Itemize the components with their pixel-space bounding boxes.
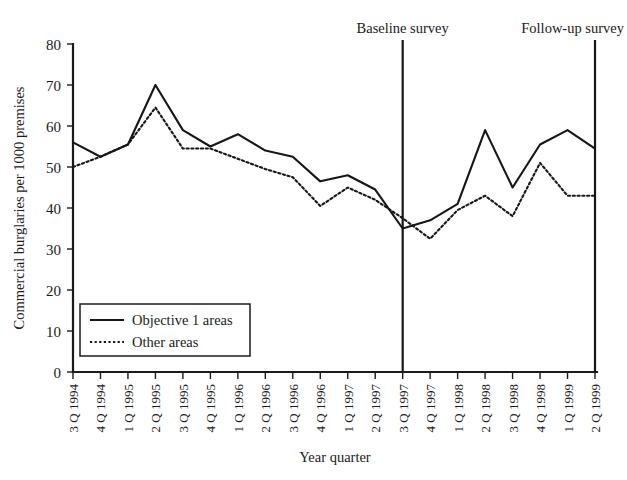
- y-axis-title: Commercial burglaries per 1000 premises: [11, 86, 27, 329]
- chart-legend: Objective 1 areas Other areas: [80, 304, 250, 356]
- y-tick-label: 0: [54, 365, 62, 381]
- y-tick-label: 20: [46, 283, 61, 299]
- chart-figure: Commercial burglaries per 1000 premises …: [0, 0, 627, 480]
- legend-label-objective1: Objective 1 areas: [132, 312, 233, 328]
- y-tick-label: 40: [46, 201, 61, 217]
- y-tick-label: 10: [46, 324, 61, 340]
- x-tick-label: 4 Q 1997: [423, 384, 438, 433]
- y-tick-label: 60: [46, 119, 61, 135]
- y-tick-label: 50: [46, 160, 61, 176]
- marker-label-followup: Follow-up survey: [521, 20, 624, 36]
- x-tick-label: 4 Q 1995: [203, 384, 218, 432]
- x-tick-label: 1 Q 1997: [341, 384, 356, 433]
- x-tick-label: 2 Q 1995: [148, 384, 163, 432]
- x-tick-label: 1 Q 1996: [231, 384, 246, 433]
- marker-label-baseline: Baseline survey: [357, 20, 450, 36]
- x-tick-label: 4 Q 1998: [533, 384, 548, 432]
- x-tick-label: 2 Q 1997: [368, 384, 383, 433]
- x-tick-label: 1 Q 1995: [121, 384, 136, 432]
- x-tick-label: 4 Q 1994: [93, 384, 108, 433]
- x-tick-label: 2 Q 1998: [478, 384, 493, 432]
- x-tick-label: 2 Q 1999: [588, 384, 603, 432]
- x-tick-label: 1 Q 1998: [451, 384, 466, 432]
- y-tick-label: 70: [46, 78, 61, 94]
- x-tick-label: 4 Q 1996: [313, 384, 328, 433]
- legend-label-other-areas: Other areas: [132, 334, 199, 350]
- x-tick-label: 2 Q 1996: [258, 384, 273, 433]
- x-tick-label: 3 Q 1997: [396, 384, 411, 433]
- line-chart-svg: Commercial burglaries per 1000 premises …: [0, 0, 627, 480]
- x-tick-label: 1 Q 1999: [561, 384, 576, 432]
- x-tick-label: 3 Q 1995: [176, 384, 191, 432]
- y-tick-label: 80: [46, 37, 61, 53]
- y-tick-label: 30: [46, 242, 61, 258]
- x-axis-title: Year quarter: [299, 449, 371, 465]
- x-tick-label: 3 Q 1996: [286, 384, 301, 433]
- x-tick-label: 3 Q 1994: [66, 384, 81, 433]
- x-tick-label: 3 Q 1998: [506, 384, 521, 432]
